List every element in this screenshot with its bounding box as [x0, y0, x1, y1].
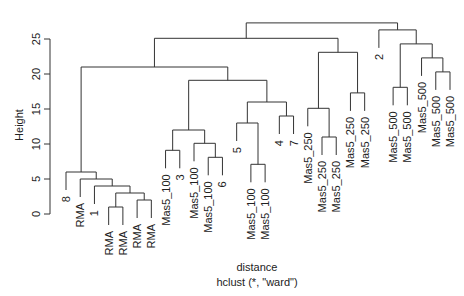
leaf-label: 8: [60, 196, 72, 202]
y-tick-label: 25: [30, 33, 42, 45]
leaf-label: Mas5_500: [416, 82, 428, 133]
leaf-label: RMA: [103, 230, 115, 255]
leaf-label: Mas5_500: [430, 96, 442, 147]
merge-K: [251, 164, 265, 182]
leaf-label: Mas5_250: [302, 132, 314, 183]
merge-L: [237, 123, 258, 164]
leaf-label: RMA: [117, 230, 129, 255]
merge-A: [109, 207, 123, 225]
leaf-label: 3: [174, 174, 186, 180]
y-tick-label: 20: [30, 68, 42, 80]
merge-V: [393, 87, 407, 105]
leaf-label: 2: [373, 54, 385, 60]
leaf-label: 5: [231, 147, 243, 153]
leaf-label: RMA: [74, 202, 86, 227]
merge-P: [81, 67, 228, 172]
leaf-label: 6: [216, 181, 228, 187]
leaf-label: Mas5_250: [330, 161, 342, 212]
leaf-label: 1: [88, 210, 100, 216]
merge-T: [318, 52, 357, 108]
leaf-label: Mas5_250: [344, 117, 356, 168]
leaf-label: Mas5_250: [359, 117, 371, 168]
x-axis-title: distance: [237, 261, 278, 273]
leaf-label: Mas5_250: [316, 161, 328, 212]
y-tick-label: 5: [30, 176, 42, 182]
leaf-label: Mas5_500: [387, 111, 399, 162]
leaf-label: Mas5_100: [259, 188, 271, 239]
merge-H: [208, 157, 222, 175]
merge-N: [247, 102, 286, 123]
merge-D: [94, 186, 130, 204]
leaf-label: Mas5_100: [202, 181, 214, 232]
leaf-label: RMA: [131, 223, 143, 248]
leaf-label: 4: [273, 140, 285, 146]
merge-J: [173, 130, 205, 150]
merge-M: [279, 116, 293, 134]
merge-E: [80, 179, 112, 197]
leaf-label: Mas5_100: [245, 188, 257, 239]
leaf-label: Mas5_500: [444, 96, 456, 147]
merge-W: [436, 72, 450, 90]
leaf-label: 7: [288, 140, 300, 146]
leaf-label: Mas5_100: [160, 174, 172, 225]
leaf-label: Mas5_500: [401, 111, 413, 162]
merge-ROOT: [246, 23, 397, 38]
merge-G: [166, 150, 180, 168]
y-tick-label: 0: [30, 211, 42, 217]
merge-Q: [322, 137, 336, 155]
leaf-label: Mas5_100: [188, 167, 200, 218]
dendrogram-plot: 0510152025 8RMA1RMARMARMARMAMas5_1003Mas…: [0, 0, 464, 296]
subtitle: hclust (*, "ward"): [216, 276, 297, 288]
y-axis-title: Height: [13, 109, 25, 141]
merge-Y: [400, 44, 432, 87]
merge-I: [194, 143, 215, 161]
y-tick-label: 10: [30, 138, 42, 150]
merge-U: [154, 38, 338, 67]
merge-B: [137, 200, 151, 218]
leaf-label: RMA: [145, 223, 157, 248]
y-axis: 0510152025: [30, 33, 50, 217]
merge-Z: [379, 30, 416, 48]
merge-F: [66, 172, 96, 190]
y-tick-label: 15: [30, 103, 42, 115]
merge-S: [350, 93, 364, 111]
merge-X: [422, 58, 443, 76]
